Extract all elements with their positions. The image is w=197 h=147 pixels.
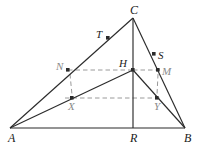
point-marker-m — [156, 68, 160, 72]
point-label-h: H — [119, 58, 127, 69]
dashed-N-X — [70, 74, 72, 95]
point-label-m: M — [162, 66, 171, 77]
point-label-n: N — [56, 61, 63, 72]
geometry-figure: ABCRHNMXYTS — [0, 0, 197, 147]
cevian-BH — [133, 70, 185, 128]
point-label-r: R — [130, 132, 137, 144]
point-label-y: Y — [154, 101, 160, 112]
point-marker-s — [152, 52, 156, 56]
point-label-c: C — [130, 4, 138, 16]
point-label-x: X — [68, 101, 75, 112]
point-label-a: A — [8, 132, 15, 144]
point-label-s: S — [158, 50, 164, 61]
point-label-b: B — [184, 132, 191, 144]
dashed-M-Y — [157, 74, 158, 95]
point-marker-h — [131, 68, 135, 72]
point-label-t: T — [96, 29, 102, 40]
point-marker-t — [106, 36, 110, 40]
point-marker-n — [66, 68, 70, 72]
